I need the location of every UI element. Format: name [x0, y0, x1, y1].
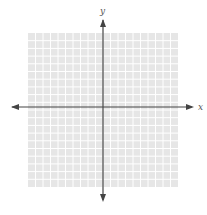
y-axis-arrow-down-icon: [100, 194, 106, 202]
coordinate-plane: x y: [0, 0, 207, 215]
x-axis-arrow-right-icon: [186, 104, 194, 110]
x-axis-arrow-left-icon: [11, 104, 19, 110]
y-axis-arrow-up-icon: [100, 19, 106, 27]
y-axis-label: y: [99, 6, 106, 16]
x-axis-label: x: [198, 102, 203, 112]
